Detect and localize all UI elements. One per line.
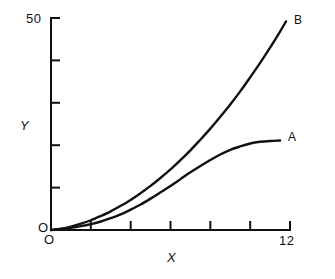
axes-group (51, 18, 290, 230)
x-axis-ticks (91, 222, 290, 230)
series-line-a (51, 141, 280, 230)
series-line-b (51, 21, 286, 230)
x-axis-max-label: 12 (279, 234, 294, 247)
series-label-a: A (288, 131, 296, 143)
y-axis-ticks (51, 18, 59, 188)
x-axis-title: X (167, 251, 176, 264)
y-axis-title: Y (20, 119, 29, 132)
x-axis-origin-label: O (44, 233, 55, 246)
chart-figure: 50 O O 12 Y X A B (0, 0, 335, 279)
y-axis-max-label: 50 (26, 12, 41, 25)
series-label-b: B (294, 14, 302, 26)
